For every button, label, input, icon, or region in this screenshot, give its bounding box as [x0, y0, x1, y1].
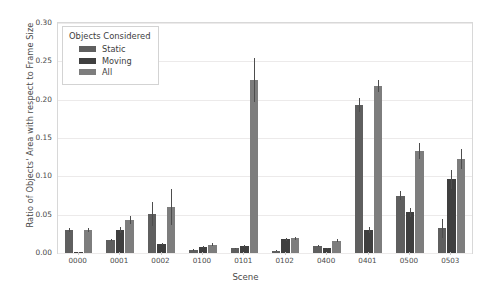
error-bar — [130, 216, 131, 224]
x-tick-label: 0101 — [234, 256, 252, 265]
bar — [374, 86, 383, 253]
legend-label: Static — [102, 44, 125, 54]
x-tick-label: 0000 — [69, 256, 87, 265]
error-bar — [193, 249, 194, 251]
error-bar — [359, 98, 360, 112]
legend: Objects Considered StaticMovingAll — [62, 26, 159, 85]
error-bar — [378, 80, 379, 92]
y-tick-label: 0.05 — [36, 209, 52, 218]
legend-label: All — [102, 67, 112, 77]
legend-swatch-icon — [79, 69, 96, 75]
y-tick-label: 0.25 — [36, 56, 52, 65]
bar — [199, 247, 208, 253]
error-bar — [286, 238, 287, 241]
x-tick-mark — [450, 252, 451, 255]
y-tick-label: 0.30 — [36, 18, 52, 27]
x-tick-label: 0400 — [317, 256, 335, 265]
x-tick-label: 0401 — [358, 256, 376, 265]
x-tick-label: 0503 — [441, 256, 459, 265]
x-tick-label: 0002 — [151, 256, 169, 265]
bar — [406, 212, 415, 253]
bar — [240, 246, 249, 253]
error-bar — [461, 149, 462, 169]
error-bar — [369, 227, 370, 233]
error-bar — [442, 219, 443, 237]
error-bar — [451, 170, 452, 188]
error-bar — [203, 246, 204, 248]
error-bar — [295, 237, 296, 240]
x-tick-mark — [326, 252, 327, 255]
bar — [84, 230, 93, 253]
error-bar — [235, 248, 236, 250]
bar — [281, 239, 290, 253]
bar — [457, 159, 466, 253]
x-tick-mark — [78, 252, 79, 255]
bar — [355, 105, 364, 253]
x-tick-mark — [368, 252, 369, 255]
legend-item-moving: Moving — [69, 56, 150, 66]
error-bar — [212, 243, 213, 246]
error-bar — [337, 239, 338, 242]
error-bar — [400, 191, 401, 200]
x-tick-mark — [409, 252, 410, 255]
error-bar — [120, 227, 121, 233]
bar — [65, 230, 74, 253]
gridline — [58, 138, 472, 139]
y-tick-label: 0.20 — [36, 94, 52, 103]
legend-title: Objects Considered — [69, 31, 150, 41]
y-tick-label: 0.15 — [36, 133, 52, 142]
error-bar — [276, 250, 277, 252]
error-bar — [69, 228, 70, 231]
gridline — [58, 100, 472, 101]
error-bar — [254, 58, 255, 102]
x-tick-label: 0100 — [193, 256, 211, 265]
legend-label: Moving — [102, 56, 132, 66]
bar — [125, 220, 134, 253]
bar — [396, 196, 405, 254]
bar — [447, 179, 456, 253]
gridline — [58, 253, 472, 254]
error-bar — [111, 239, 112, 241]
error-bar — [244, 245, 245, 247]
legend-item-all: All — [69, 67, 150, 77]
error-bar — [327, 248, 328, 250]
bar — [415, 151, 424, 253]
x-tick-mark — [119, 252, 120, 255]
y-axis-ticks: 0.000.050.100.150.200.250.30 — [0, 22, 57, 252]
error-bar — [171, 189, 172, 224]
bar — [291, 238, 300, 253]
bar — [250, 80, 259, 253]
x-tick-mark — [161, 252, 162, 255]
legend-items: StaticMovingAll — [69, 44, 150, 77]
error-bar — [152, 202, 153, 227]
legend-swatch-icon — [79, 58, 96, 64]
y-tick-label: 0.00 — [36, 248, 52, 257]
gridline — [58, 23, 472, 24]
error-bar — [318, 245, 319, 247]
y-tick-label: 0.10 — [36, 171, 52, 180]
bar — [116, 230, 125, 253]
bar — [106, 240, 115, 253]
error-bar — [79, 252, 80, 253]
x-tick-mark — [202, 252, 203, 255]
x-tick-label: 0500 — [400, 256, 418, 265]
bar — [332, 241, 341, 253]
error-bar — [419, 143, 420, 160]
bar — [364, 230, 373, 253]
x-tick-label: 0102 — [276, 256, 294, 265]
bar — [157, 244, 166, 253]
legend-swatch-icon — [79, 46, 96, 52]
legend-item-static: Static — [69, 44, 150, 54]
bar-chart-figure: Ratio of Objects' Area with respect to F… — [0, 0, 491, 293]
x-axis-label: Scene — [0, 272, 491, 282]
gridline — [58, 176, 472, 177]
x-tick-mark — [243, 252, 244, 255]
bar — [313, 246, 322, 253]
x-tick-mark — [285, 252, 286, 255]
x-tick-label: 0001 — [110, 256, 128, 265]
error-bar — [88, 228, 89, 231]
error-bar — [410, 208, 411, 217]
error-bar — [162, 243, 163, 245]
